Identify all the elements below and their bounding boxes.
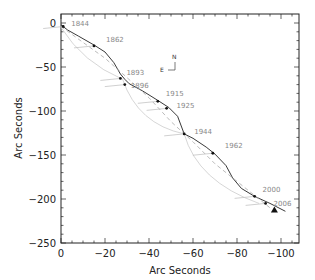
epoch-label: 2000: [263, 186, 281, 194]
x-tick-label: −20: [94, 248, 115, 259]
epoch-label: 1944: [194, 128, 212, 136]
x-axis-label: Arc Seconds: [149, 265, 210, 276]
epoch-point: [253, 195, 256, 198]
epoch-point: [183, 132, 186, 135]
y-tick-label: −100: [29, 106, 56, 117]
astrometric-chart: 0−20−40−60−80−1000−50−100−150−200−250 18…: [0, 0, 315, 280]
epoch-point: [264, 202, 267, 205]
epoch-point: [156, 100, 159, 103]
epoch-point: [165, 107, 168, 110]
y-tick-label: −50: [35, 62, 56, 73]
gray-tracks: [61, 27, 259, 203]
epoch-point: [119, 77, 122, 80]
epoch-points: 1844186218931896191519251944196220002006: [43, 20, 292, 213]
epoch-point: [62, 25, 65, 28]
compass-north: N: [172, 53, 177, 60]
epoch-label: 1915: [166, 90, 184, 98]
y-axis-label: Arc Seconds: [13, 97, 24, 158]
epoch-label: 2006: [274, 200, 292, 208]
x-tick-label: −60: [182, 248, 203, 259]
epoch-point: [93, 44, 96, 47]
epoch-label: 1844: [71, 20, 89, 28]
x-tick-label: −80: [226, 248, 247, 259]
x-tick-label: −40: [138, 248, 159, 259]
epoch-point: [123, 83, 126, 86]
secondary-track: [61, 27, 270, 208]
y-tick-label: −250: [29, 238, 56, 249]
x-tick-label: −100: [267, 248, 294, 259]
x-tick-label: 0: [58, 248, 64, 259]
y-tick-label: −200: [29, 194, 56, 205]
plot-frame: [61, 14, 299, 243]
y-tick-label: −150: [29, 150, 56, 161]
epoch-label: 1893: [126, 69, 144, 77]
compass-east: E: [160, 66, 164, 73]
epoch-point: [211, 152, 214, 155]
epoch-label: 1862: [106, 36, 124, 44]
axis-ticks: 0−20−40−60−80−1000−50−100−150−200−250: [29, 14, 299, 259]
epoch-label: 1925: [177, 102, 195, 110]
compass: N E: [160, 53, 177, 73]
epoch-label: 1896: [131, 82, 149, 90]
epoch-label: 1962: [225, 142, 243, 150]
